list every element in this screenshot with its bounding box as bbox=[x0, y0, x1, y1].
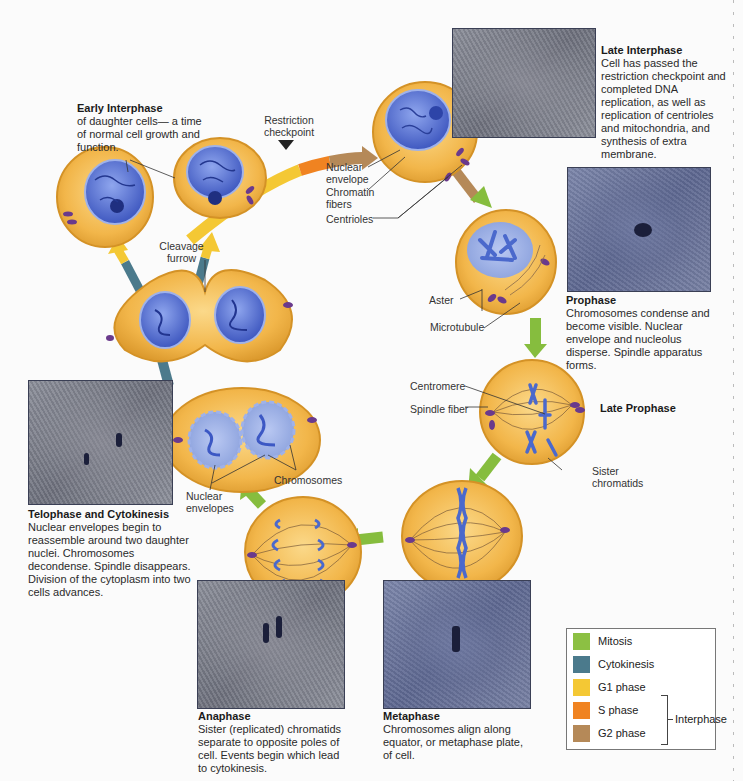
legend-item-g1: G1 phase bbox=[573, 678, 646, 696]
micrograph-chromosomes bbox=[116, 433, 122, 447]
micrograph-telophase bbox=[28, 380, 173, 505]
caption-anaphase: Anaphase Sister (replicated) chromatids … bbox=[198, 710, 348, 775]
caption-body: Cell has passed the restriction checkpoi… bbox=[601, 57, 726, 160]
caption-prophase: Prophase Chromosomes condense and become… bbox=[566, 294, 716, 372]
legend-label: S phase bbox=[598, 704, 638, 716]
label-spindle-fiber: Spindle fiber bbox=[410, 403, 468, 415]
legend-interphase-label: Interphase bbox=[675, 713, 727, 725]
legend-swatch bbox=[573, 656, 590, 673]
label-centromere: Centromere bbox=[410, 380, 465, 392]
interphase-bracket-tick bbox=[667, 719, 673, 720]
label-cleavage-furrow: Cleavage furrow bbox=[154, 240, 209, 264]
caption-late-prophase: Late Prophase bbox=[600, 402, 676, 415]
legend-item-g2: G2 phase bbox=[573, 724, 646, 742]
caption-metaphase: Metaphase Chromosomes align along equato… bbox=[383, 710, 525, 762]
caption-title: Metaphase bbox=[383, 710, 525, 723]
caption-body: Sister (replicated) chromatids separate … bbox=[198, 723, 341, 774]
legend-swatch bbox=[573, 679, 590, 696]
caption-body: Chromosomes align along equator, or meta… bbox=[383, 723, 523, 761]
micrograph-prophase bbox=[567, 167, 711, 292]
caption-body: Nuclear envelopes begin to reassemble ar… bbox=[28, 521, 191, 598]
legend-item-cytokinesis: Cytokinesis bbox=[573, 655, 654, 673]
cell-prophase bbox=[456, 210, 556, 314]
micrograph-chromosomes bbox=[84, 453, 89, 465]
page-edge-divider bbox=[733, 0, 734, 781]
micrograph-metaphase bbox=[383, 580, 531, 709]
label-sister-chromatids: Sister chromatids bbox=[592, 465, 647, 489]
caption-title: Anaphase bbox=[198, 710, 348, 723]
micrograph-chromosomes bbox=[452, 626, 460, 652]
caption-late-interphase: Late Interphase Cell has passed the rest… bbox=[601, 44, 731, 161]
legend-swatch bbox=[573, 633, 590, 650]
label-chromosomes: Chromosomes bbox=[274, 474, 342, 486]
cell-late-prophase bbox=[480, 360, 585, 464]
label-nuclear-envelope: Nuclear envelope bbox=[326, 161, 374, 185]
micrograph-chromosomes bbox=[263, 623, 269, 643]
legend-item-mitosis: Mitosis bbox=[573, 632, 632, 650]
legend-label: G2 phase bbox=[598, 727, 646, 739]
legend-swatch bbox=[573, 725, 590, 742]
caption-early-interphase: Early Interphase of daughter cells— a ti… bbox=[77, 102, 207, 154]
label-restriction-checkpoint: Restriction checkpoint bbox=[258, 114, 320, 138]
micrograph-late-interphase bbox=[452, 28, 596, 138]
label-aster: Aster bbox=[429, 294, 454, 306]
interphase-bracket bbox=[661, 695, 668, 745]
micrograph-anaphase bbox=[197, 580, 345, 709]
cell-early-interphase-1 bbox=[57, 147, 153, 247]
micrograph-chromosomes bbox=[634, 223, 652, 237]
micrograph-chromosomes bbox=[276, 616, 282, 638]
legend-label: G1 phase bbox=[598, 681, 646, 693]
legend-label: Mitosis bbox=[598, 635, 632, 647]
caption-title: Prophase bbox=[566, 294, 716, 307]
cell-metaphase bbox=[402, 481, 522, 591]
label-nuclear-envelopes: Nuclear envelopes bbox=[186, 490, 241, 514]
legend-swatch bbox=[573, 702, 590, 719]
label-centrioles: Centrioles bbox=[326, 213, 373, 225]
caption-title: Telophase and Cytokinesis bbox=[28, 508, 198, 521]
caption-body: of daughter cells— a time of normal cell… bbox=[77, 115, 202, 153]
legend: Mitosis Cytokinesis G1 phase S phase G2 … bbox=[566, 628, 716, 750]
caption-title: Late Interphase bbox=[601, 44, 731, 57]
caption-body: Chromosomes condense and become visible.… bbox=[566, 307, 710, 371]
legend-item-s: S phase bbox=[573, 701, 638, 719]
label-microtubule: Microtubule bbox=[430, 321, 484, 333]
caption-title: Early Interphase bbox=[77, 102, 207, 115]
label-chromatin-fibers: Chromatin fibers bbox=[326, 186, 376, 210]
caption-telophase: Telophase and Cytokinesis Nuclear envelo… bbox=[28, 508, 198, 599]
legend-label: Cytokinesis bbox=[598, 658, 654, 670]
caption-title: Late Prophase bbox=[600, 402, 676, 415]
